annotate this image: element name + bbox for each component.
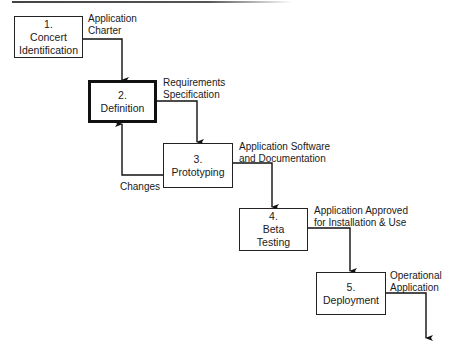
step-name-line: Concert (30, 31, 67, 44)
label-line: Requirements (163, 77, 225, 89)
step-number: 5. (347, 281, 356, 294)
output-label-requirements-specification: Requirements Specification (163, 77, 225, 101)
label-line: Charter (88, 25, 137, 37)
arrow-changes-3-to-2 (122, 124, 163, 175)
arrow-3-to-4 (232, 163, 272, 207)
step-name-line: Identification (19, 44, 78, 57)
label-line: Application Software (239, 141, 330, 153)
arrow-5-output (385, 293, 426, 338)
step-box-concert-identification: 1. Concert Identification (14, 16, 83, 58)
step-number: 2. (118, 89, 127, 102)
feedback-label-changes: Changes (120, 181, 160, 193)
output-label-application-approved: Application Approved for Installation & … (314, 205, 408, 229)
step-number: 4. (269, 210, 278, 223)
label-line: Application (390, 282, 442, 294)
label-line: Application (88, 13, 137, 25)
arrow-4-to-5 (307, 228, 350, 271)
step-box-deployment: 5. Deployment (316, 272, 386, 315)
step-name-line: Beta (263, 223, 285, 236)
label-line: Specification (163, 89, 225, 101)
step-name-line: Testing (257, 236, 290, 249)
step-number: 3. (194, 153, 203, 166)
arrow-2-to-3 (156, 101, 197, 142)
output-label-operational-application: Operational Application (390, 270, 442, 294)
output-label-application-software: Application Software and Documentation (239, 141, 330, 165)
step-box-prototyping: 3. Prototyping (163, 143, 233, 188)
step-number: 1. (44, 18, 53, 31)
step-box-beta-testing: 4. Beta Testing (239, 208, 308, 251)
label-line: and Documentation (239, 153, 330, 165)
step-name-line: Definition (101, 102, 145, 115)
step-name-line: Prototyping (171, 166, 224, 179)
label-line: Application Approved (314, 205, 408, 217)
output-label-application-charter: Application Charter (88, 13, 137, 37)
label-line: for Installation & Use (314, 217, 408, 229)
arrow-1-to-2 (82, 39, 122, 80)
step-box-definition: 2. Definition (88, 80, 157, 123)
step-name-line: Deployment (323, 294, 379, 307)
label-line: Operational (390, 270, 442, 282)
